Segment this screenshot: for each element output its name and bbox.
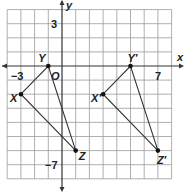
vertex-point xyxy=(73,148,78,153)
tick-label: −7 xyxy=(45,159,58,171)
vertex-label: X xyxy=(9,92,18,104)
x-axis-left-arrow-icon xyxy=(2,64,7,69)
vertex-point xyxy=(156,148,161,153)
vertex-point xyxy=(128,64,133,69)
vertex-label: Z xyxy=(78,150,87,162)
vertex-label: Y xyxy=(38,52,47,64)
coordinate-plane: xyO −373−7 XYZX′Y′Z′ xyxy=(0,0,188,193)
x-axis-right-arrow-icon xyxy=(179,64,184,69)
tick-label: −3 xyxy=(11,70,24,82)
y-axis-up-arrow-icon xyxy=(60,0,65,5)
y-axis-down-arrow-icon xyxy=(60,187,65,192)
vertex-label: X′ xyxy=(90,92,102,104)
vertex-point xyxy=(101,92,106,97)
vertex-point xyxy=(19,92,24,97)
vertex-label: Z′ xyxy=(156,154,168,166)
tick-label: 7 xyxy=(155,70,161,82)
grid-lines xyxy=(7,10,171,179)
vertex-label: Y′ xyxy=(128,52,139,64)
x-axis-label: x xyxy=(176,51,184,63)
tick-label: 3 xyxy=(51,18,57,30)
vertex-point xyxy=(46,64,51,69)
y-axis-label: y xyxy=(65,0,73,11)
